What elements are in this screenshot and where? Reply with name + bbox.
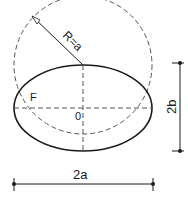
ellipse-diagram: R=a F 0 2b 2a	[0, 0, 188, 197]
focus-label: F	[30, 91, 37, 103]
width-dim-dot-left	[12, 182, 16, 186]
height-dim-dot-bottom	[178, 149, 182, 153]
width-dimension-label: 2a	[73, 167, 88, 182]
radius-label: R=a	[60, 28, 86, 54]
height-dim-dot-top	[178, 61, 182, 65]
width-dim-dot-right	[151, 182, 155, 186]
height-dimension-label: 2b	[164, 100, 179, 114]
center-label: 0	[75, 110, 81, 122]
